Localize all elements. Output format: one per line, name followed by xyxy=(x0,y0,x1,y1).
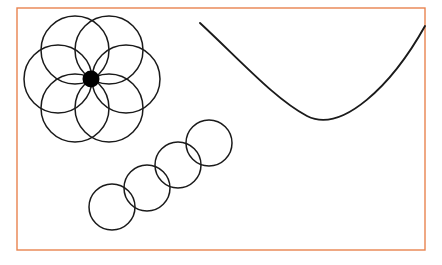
chain-circle-1 xyxy=(89,184,135,230)
diagonal-chain xyxy=(89,120,232,230)
chain-circle-3 xyxy=(155,142,201,188)
geometric-figure xyxy=(0,0,442,265)
chain-circle-2 xyxy=(124,165,170,211)
parabolic-curve xyxy=(200,23,425,120)
figure-canvas xyxy=(0,0,442,265)
chain-circle-4 xyxy=(186,120,232,166)
rosette-center-dot xyxy=(83,71,100,88)
figure-border xyxy=(17,8,425,250)
parabolic-curve-path xyxy=(200,23,425,120)
